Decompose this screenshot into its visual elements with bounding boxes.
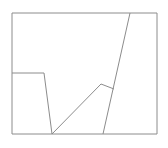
canvas-background <box>0 0 168 148</box>
figure-container <box>0 0 168 148</box>
line-drawing-svg <box>0 0 168 148</box>
